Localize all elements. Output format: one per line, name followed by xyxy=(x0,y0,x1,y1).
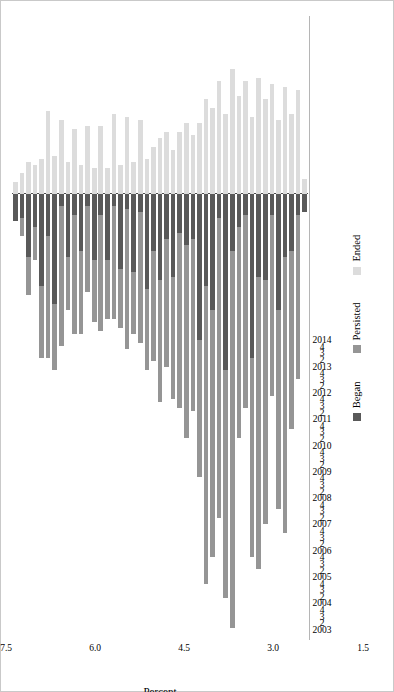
legend-item[interactable]: Persisted xyxy=(351,303,363,354)
legend-item[interactable]: Began xyxy=(351,381,363,421)
bar-segment-persisted xyxy=(59,206,64,346)
bar-segment-ended xyxy=(112,114,117,194)
bar-segment-ended xyxy=(39,159,44,195)
bar-segment-persisted xyxy=(184,245,189,438)
bar-segment-ended xyxy=(177,132,182,194)
bar-segment-ended xyxy=(164,132,169,194)
bar-segment-ended xyxy=(151,147,156,195)
bar-segment-began xyxy=(250,194,255,357)
bar-segment-ended xyxy=(296,90,301,194)
bar-row xyxy=(112,16,117,640)
bar-segment-began xyxy=(79,194,84,250)
bar-row xyxy=(243,16,248,640)
bar-segment-began xyxy=(112,194,117,206)
bar-segment-ended xyxy=(158,138,163,194)
bar-segment-began xyxy=(204,194,209,286)
bar-segment-began xyxy=(125,194,130,209)
bar-segment-persisted xyxy=(223,370,228,599)
bar-segment-began xyxy=(59,194,64,206)
category-tick-label: 2014 xyxy=(310,335,334,346)
bar-segment-began xyxy=(138,194,143,212)
bar-row xyxy=(131,16,136,640)
value-tick-label: 7.5 xyxy=(0,642,12,654)
bar-segment-began xyxy=(92,194,97,259)
bar-segment-began xyxy=(197,194,202,340)
bar-segment-began xyxy=(85,194,90,206)
bar-segment-ended xyxy=(256,78,261,194)
bar-segment-began xyxy=(118,194,123,268)
bar-segment-ended xyxy=(171,150,176,195)
bar-segment-began xyxy=(98,194,103,215)
bar-segment-began xyxy=(223,194,228,369)
bar-row xyxy=(263,16,268,640)
bar-row xyxy=(164,16,169,640)
bar-segment-ended xyxy=(237,96,242,194)
bar-segment-began xyxy=(151,194,156,250)
bar-row xyxy=(145,16,150,640)
chart-legend: BeganPersistedEnded xyxy=(348,16,366,640)
legend-item[interactable]: Ended xyxy=(351,235,363,275)
bar-row xyxy=(59,16,64,640)
bar-segment-began xyxy=(33,194,38,227)
bar-segment-persisted xyxy=(210,310,215,557)
bar-segment-began xyxy=(283,194,288,256)
bar-segment-began xyxy=(105,194,110,259)
bar-row xyxy=(177,16,182,640)
bar-segment-persisted xyxy=(204,286,209,583)
bar-segment-ended xyxy=(243,81,248,194)
bar-row xyxy=(302,16,307,640)
bar-row xyxy=(223,16,228,640)
plot-area xyxy=(12,16,308,640)
bar-segment-persisted xyxy=(72,215,77,334)
bar-row xyxy=(184,16,189,640)
bar-segment-ended xyxy=(138,120,143,194)
bar-segment-persisted xyxy=(151,251,156,361)
bar-segment-persisted xyxy=(250,358,255,557)
bar-segment-persisted xyxy=(98,215,103,331)
bar-segment-persisted xyxy=(296,215,301,378)
bar-segment-began xyxy=(276,194,281,310)
bar-segment-ended xyxy=(72,129,77,194)
bar-segment-persisted xyxy=(125,209,130,349)
bar-segment-began xyxy=(131,194,136,271)
legend-swatch-icon xyxy=(353,267,361,275)
bar-segment-persisted xyxy=(20,218,25,236)
bar-row xyxy=(158,16,163,640)
chart-figure: 7.56.04.53.01.50.0(1.5)(3.0) Percent 200… xyxy=(0,0,394,692)
bar-row xyxy=(13,16,18,640)
bar-segment-began xyxy=(26,194,31,256)
bar-segment-began xyxy=(72,194,77,215)
bar-segment-persisted xyxy=(197,340,202,477)
bar-segment-ended xyxy=(20,174,25,195)
bar-segment-persisted xyxy=(243,215,248,408)
bar-row xyxy=(204,16,209,640)
bar-segment-persisted xyxy=(39,286,44,357)
bar-segment-began xyxy=(237,194,242,227)
bar-segment-persisted xyxy=(158,280,163,402)
bar-row xyxy=(98,16,103,640)
bar-segment-ended xyxy=(223,114,228,194)
bar-row xyxy=(270,16,275,640)
bar-segment-began xyxy=(66,194,71,256)
bar-segment-ended xyxy=(191,135,196,194)
bar-segment-persisted xyxy=(112,206,117,319)
bar-segment-ended xyxy=(85,126,90,194)
bar-segment-ended xyxy=(210,108,215,194)
value-tick-label: 3.0 xyxy=(268,642,280,654)
bar-segment-persisted xyxy=(289,251,294,429)
bar-segment-ended xyxy=(79,165,84,195)
bar-segment-persisted xyxy=(177,233,182,408)
bar-segment-persisted xyxy=(263,280,268,524)
legend-label: Ended xyxy=(351,235,363,262)
bar-segment-persisted xyxy=(85,206,90,292)
bar-segment-persisted xyxy=(131,272,136,334)
bar-segment-began xyxy=(164,194,169,239)
bar-segment-began xyxy=(191,194,196,239)
bar-segment-ended xyxy=(13,182,18,194)
bar-segment-ended xyxy=(289,114,294,194)
bar-row xyxy=(92,16,97,640)
bar-row xyxy=(283,16,288,640)
bar-row xyxy=(72,16,77,640)
bar-segment-began xyxy=(52,194,57,304)
bar-row xyxy=(85,16,90,640)
